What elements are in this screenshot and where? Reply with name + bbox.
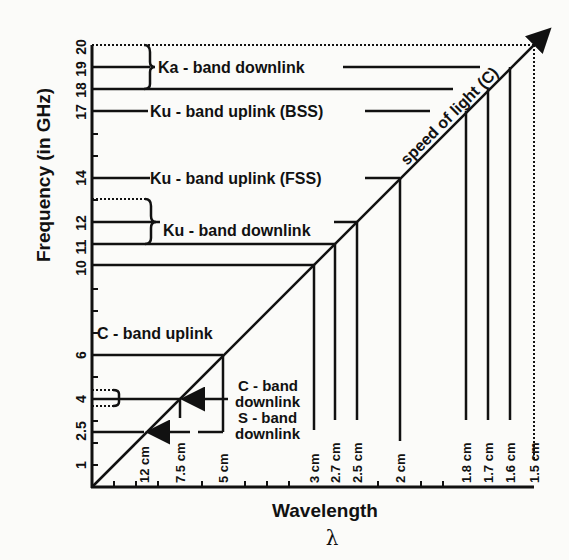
svg-text:1.8 cm: 1.8 cm bbox=[459, 443, 474, 483]
svg-text:3 cm: 3 cm bbox=[307, 453, 322, 483]
y-axis-title: Frequency (in GHz) bbox=[33, 88, 54, 262]
svg-text:4: 4 bbox=[73, 395, 89, 403]
svg-text:17: 17 bbox=[73, 104, 89, 120]
x-tick-labels: 12 cm 7.5 cm 5 cm 3 cm 2.7 cm 2.5 cm 2 c… bbox=[137, 443, 542, 483]
svg-text:1: 1 bbox=[73, 461, 89, 469]
svg-text:19: 19 bbox=[73, 61, 89, 77]
label-s-band-downlink-2: downlink bbox=[235, 425, 301, 442]
wavelength-lines bbox=[180, 67, 510, 441]
lambda-symbol: λ bbox=[326, 526, 339, 550]
svg-text:11: 11 bbox=[73, 239, 89, 254]
speed-of-light-line bbox=[92, 31, 548, 487]
svg-text:2 cm: 2 cm bbox=[393, 453, 408, 483]
label-ka-band-downlink: Ka - band downlink bbox=[158, 59, 305, 76]
label-speed-of-light: speed of light (C) bbox=[397, 64, 501, 168]
svg-text:6: 6 bbox=[73, 351, 89, 359]
svg-text:2.5: 2.5 bbox=[73, 421, 89, 441]
frequency-wavelength-diagram: Ka - band downlink Ku - band uplink (BSS… bbox=[0, 0, 569, 560]
label-s-band-downlink-1: S - band bbox=[238, 409, 297, 426]
svg-text:14: 14 bbox=[73, 170, 89, 186]
label-c-band-downlink-1: C - band bbox=[238, 377, 298, 394]
label-ku-band-uplink-bss: Ku - band uplink (BSS) bbox=[150, 103, 323, 120]
svg-text:10: 10 bbox=[73, 260, 89, 276]
svg-text:18: 18 bbox=[73, 82, 89, 98]
label-ku-band-downlink: Ku - band downlink bbox=[163, 222, 311, 239]
svg-text:2.7 cm: 2.7 cm bbox=[328, 443, 343, 483]
y-tick-labels: 1 2.5 4 6 10 11 12 14 17 18 19 20 bbox=[73, 39, 89, 469]
label-ku-band-uplink-fss: Ku - band uplink (FSS) bbox=[150, 170, 322, 187]
svg-text:12: 12 bbox=[73, 215, 89, 231]
label-c-band-downlink-2: downlink bbox=[235, 393, 301, 410]
svg-text:1.7 cm: 1.7 cm bbox=[481, 443, 496, 483]
downlink-arrows bbox=[150, 399, 228, 432]
svg-text:1.6 cm: 1.6 cm bbox=[503, 443, 518, 483]
svg-text:7.5 cm: 7.5 cm bbox=[173, 443, 188, 483]
svg-text:12 cm: 12 cm bbox=[137, 446, 152, 483]
x-axis-title: Wavelength bbox=[272, 500, 378, 521]
svg-text:2.5 cm: 2.5 cm bbox=[350, 443, 365, 483]
svg-text:20: 20 bbox=[73, 39, 89, 55]
braces bbox=[113, 45, 156, 406]
svg-text:5 cm: 5 cm bbox=[216, 453, 231, 483]
svg-text:1.5 cm: 1.5 cm bbox=[527, 443, 542, 483]
label-c-band-uplink: C - band uplink bbox=[97, 325, 213, 342]
